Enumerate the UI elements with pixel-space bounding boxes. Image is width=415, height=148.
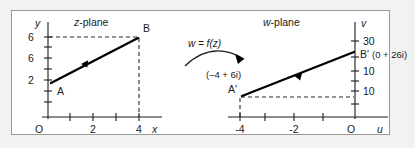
w-plane-point-B-label: B' xyxy=(360,48,369,60)
z-plane-y-label-1: 6 xyxy=(28,52,34,64)
transformation-arrow xyxy=(185,51,244,66)
transformation-label: w = f(z) xyxy=(188,38,221,49)
w-plane-panel: w-plane v u 30 10 10 -4 -2 O A' (–4 + 6i… xyxy=(206,16,407,135)
z-plane-panel: z-plane y x 6 6 2 2 4 O A B xyxy=(28,16,162,135)
transformation-arrowhead xyxy=(235,54,244,64)
w-plane-u-label-1: -2 xyxy=(289,123,298,135)
w-plane-v-label-2: 10 xyxy=(363,85,375,97)
z-plane-title-suffix: -plane xyxy=(79,16,108,28)
complex-mapping-figure: z-plane y x 6 6 2 2 4 O A B w = f(z) xyxy=(0,0,415,148)
w-plane-point-A-label: A' xyxy=(228,83,237,95)
w-plane-title: w-plane xyxy=(263,16,300,28)
z-plane-point-A-label: A xyxy=(57,85,64,97)
w-plane-u-label-0: -4 xyxy=(235,123,244,135)
z-plane-y-axis-label: y xyxy=(34,17,41,29)
w-plane-v-label-0: 30 xyxy=(363,35,375,47)
w-plane-point-A-coordinate: (–4 + 6i) xyxy=(206,69,241,80)
w-plane-v-axis-label: v xyxy=(361,17,367,29)
transformation-group: w = f(z) xyxy=(185,38,244,66)
w-plane-origin-label: O xyxy=(347,123,355,135)
z-plane-y-label-2: 2 xyxy=(28,74,34,86)
z-plane-x-label-0: 2 xyxy=(90,123,96,135)
z-plane-y-label-0: 6 xyxy=(28,31,34,43)
z-plane-vector-AB xyxy=(51,38,138,83)
z-plane-x-axis-label: x xyxy=(151,123,158,135)
w-plane-title-suffix: -plane xyxy=(271,16,300,28)
z-plane-x-label-1: 4 xyxy=(136,123,142,135)
z-plane-origin-label: O xyxy=(35,123,43,135)
z-plane-title: z-plane xyxy=(73,16,109,28)
w-plane-u-axis-label: u xyxy=(377,123,383,135)
z-plane-point-B-label: B xyxy=(143,22,150,34)
figure-canvas: z-plane y x 6 6 2 2 4 O A B w = f(z) xyxy=(0,0,415,148)
w-plane-point-B-coordinate: (0 + 26i) xyxy=(372,49,407,60)
w-plane-v-label-1: 10 xyxy=(363,65,375,77)
